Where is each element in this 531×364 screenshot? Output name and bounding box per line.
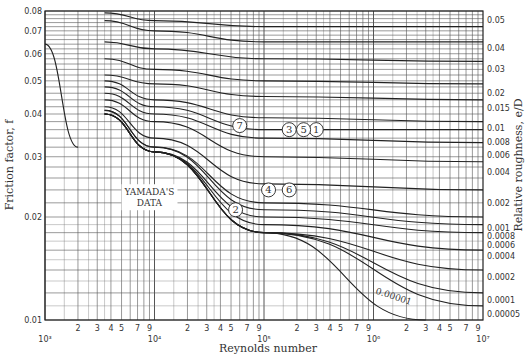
y-axis-label: Friction factor, f <box>3 119 16 211</box>
callout-label-5: 5 <box>300 124 306 135</box>
y-axis-label-right: Relative roughness, e/D <box>512 98 525 231</box>
x-minor-label: 3 <box>95 324 100 333</box>
x-minor-label: 5 <box>228 324 233 333</box>
x-minor-label: 5 <box>447 324 452 333</box>
callout-label-7: 7 <box>237 120 243 131</box>
x-minor-label: 2 <box>404 324 409 333</box>
right-tick-label: 0.0008 <box>487 232 515 241</box>
x-minor-label: 4 <box>218 324 223 333</box>
y-tick-label: 0.06 <box>24 50 42 59</box>
x-minor-label: 7 <box>354 324 359 333</box>
curve-e-d-0-015 <box>105 75 483 100</box>
x-minor-label: 4 <box>327 324 332 333</box>
right-tick-label: 0.015 <box>487 104 510 113</box>
curve-e-d-0-002 <box>105 107 483 190</box>
x-minor-label: 3 <box>204 324 209 333</box>
x-axis-ticks: 10³10⁴10⁵10⁶10⁷234579234579234579234579 <box>38 324 489 344</box>
x-minor-label: 4 <box>108 324 113 333</box>
x-minor-label: 9 <box>256 324 261 333</box>
y-tick-label: 0.01 <box>24 316 42 325</box>
y-axis-ticks: 0.080.070.060.050.040.030.020.01 <box>24 7 42 325</box>
callout-label-1: 1 <box>313 124 319 135</box>
y-tick-label: 0.05 <box>24 77 42 86</box>
curve-laminar-f-64-re <box>45 44 78 147</box>
x-minor-label: 3 <box>423 324 428 333</box>
callout-label-4: 4 <box>265 184 271 195</box>
x-minor-label: 5 <box>119 324 124 333</box>
x-minor-label: 9 <box>147 324 152 333</box>
x-decade-label: 10³ <box>38 335 51 344</box>
yamada-label: YAMADA'S <box>124 187 175 197</box>
grid <box>45 11 483 320</box>
moody-chart: 0.080.070.060.050.040.030.020.01 0.050.0… <box>0 0 531 364</box>
x-minor-label: 4 <box>437 324 442 333</box>
x-minor-label: 2 <box>294 324 299 333</box>
y-tick-label: 0.02 <box>24 213 42 222</box>
y-tick-label: 0.03 <box>24 153 42 162</box>
callout-label-3: 3 <box>286 124 292 135</box>
curve-e-d-0-02 <box>105 59 483 84</box>
annotations: YAMADA'SDATA0.000011234567 <box>121 119 412 307</box>
x-minor-label: 7 <box>135 324 140 333</box>
right-tick-label: 0.04 <box>487 44 505 53</box>
x-minor-label: 9 <box>475 324 480 333</box>
right-tick-label: 0.05 <box>487 16 505 25</box>
right-tick-label: 0.004 <box>487 168 510 177</box>
right-tick-label: 0.006 <box>487 151 510 160</box>
x-decade-label: 10⁶ <box>367 335 380 344</box>
right-tick-label: 0.01 <box>487 124 505 133</box>
x-minor-label: 9 <box>366 324 371 333</box>
x-minor-label: 7 <box>244 324 249 333</box>
callout-label-2: 2 <box>232 204 238 215</box>
right-tick-label: 0.0006 <box>487 241 515 250</box>
right-tick-label: 0.02 <box>487 89 505 98</box>
x-minor-label: 5 <box>338 324 343 333</box>
y-tick-label: 0.08 <box>24 7 42 16</box>
x-decade-label: 10⁴ <box>148 335 161 344</box>
right-tick-label: 0.03 <box>487 65 505 74</box>
x-minor-label: 2 <box>185 324 190 333</box>
x-decade-label: 10⁷ <box>476 335 489 344</box>
right-tick-label: 0.008 <box>487 138 510 147</box>
x-minor-label: 2 <box>75 324 80 333</box>
y-tick-label: 0.07 <box>24 27 42 36</box>
x-axis-label: Reynolds number <box>219 342 318 355</box>
callout-label-6: 6 <box>286 184 292 195</box>
yamada-label: DATA <box>137 198 163 208</box>
right-tick-label: 0.00005 <box>487 310 520 319</box>
curve-e-d-0-03 <box>105 42 483 62</box>
right-tick-label: 0.0002 <box>487 273 515 282</box>
curve-e-d-0-04 <box>105 21 483 42</box>
right-tick-label: 0.0004 <box>487 252 515 261</box>
x-minor-label: 3 <box>314 324 319 333</box>
right-tick-label: 0.002 <box>487 199 510 208</box>
y-tick-label: 0.04 <box>24 110 42 119</box>
right-tick-label: 0.0001 <box>487 296 515 305</box>
x-minor-label: 7 <box>463 324 468 333</box>
